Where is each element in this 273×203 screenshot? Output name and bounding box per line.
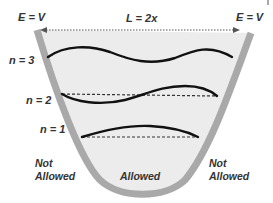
width-arrow-right-head-icon: [233, 27, 240, 33]
center-region-label: Allowed: [120, 170, 160, 183]
left-region-label: Not Allowed: [35, 157, 75, 183]
right-region-label: Not Allowed: [209, 157, 249, 183]
right-region-line1: Not: [209, 157, 249, 170]
right-region-line2: Allowed: [209, 170, 249, 183]
left-region-line1: Not: [35, 157, 75, 170]
level-label-n1: n = 1: [40, 124, 65, 135]
left-region-line2: Allowed: [35, 170, 75, 183]
level-label-n3: n = 3: [9, 55, 34, 66]
left-boundary-label: E = V: [18, 12, 45, 23]
right-boundary-label: E = V: [236, 12, 263, 23]
well-width-label: L = 2x: [126, 13, 157, 24]
level-label-n2: n = 2: [26, 95, 51, 106]
